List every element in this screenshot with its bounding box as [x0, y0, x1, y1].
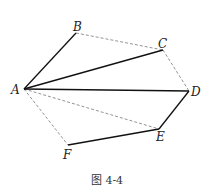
- segment-AD: [24, 89, 189, 91]
- segment-EF: [68, 129, 159, 145]
- label-B: B: [72, 20, 82, 34]
- segment-CD: [163, 50, 189, 91]
- segment-AB: [24, 33, 76, 89]
- segment-AE: [24, 89, 159, 129]
- segment-BC: [76, 33, 163, 50]
- segment-DE: [159, 91, 189, 129]
- label-A: A: [10, 83, 20, 97]
- label-C: C: [158, 37, 167, 51]
- segment-AC: [24, 50, 163, 89]
- label-D: D: [190, 85, 201, 99]
- segment-AF: [24, 89, 68, 145]
- label-E: E: [155, 130, 165, 144]
- figure-caption: 图 4-4: [91, 174, 123, 187]
- label-F: F: [62, 148, 72, 162]
- hexagon-diagram: A B C D E F 图 4-4: [0, 0, 212, 193]
